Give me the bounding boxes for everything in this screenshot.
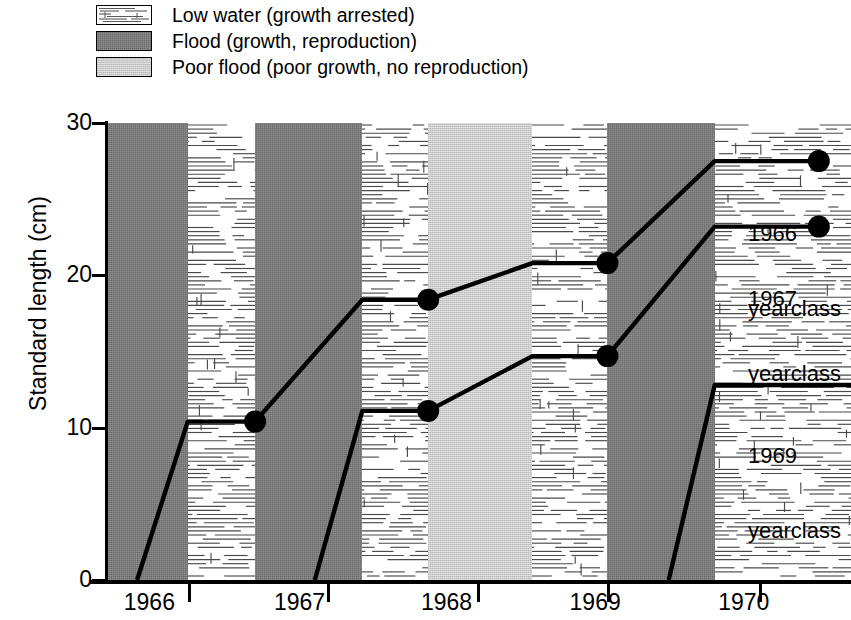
data-point-marker (417, 289, 439, 311)
annotation-1969-line1: 1969 (748, 443, 841, 468)
data-point-marker (596, 345, 618, 367)
series-line-1 (315, 227, 819, 580)
plot-area: 1966 yearclass 1967 yearclass 1969 yearc… (108, 123, 851, 580)
y-axis-line (105, 121, 108, 582)
data-point-marker (808, 150, 830, 172)
x-tick-label-1970: 1970 (684, 589, 804, 615)
y-tick-mark (92, 427, 106, 430)
legend-item-poor-flood: Poor flood (poor growth, no reproduction… (96, 54, 716, 80)
y-axis-label: Standard length (cm) (25, 114, 52, 494)
y-tick-mark (92, 274, 106, 277)
x-tick-label-1968: 1968 (387, 589, 507, 615)
series-layer (108, 123, 851, 580)
low-water-texture-icon (97, 6, 151, 24)
x-axis-line (90, 580, 851, 584)
legend-label-flood: Flood (growth, reproduction) (172, 31, 417, 51)
figure-root: Low water (growth arrested) Flood (growt… (0, 0, 851, 620)
series-line-0 (137, 161, 819, 580)
y-tick-mark (92, 579, 106, 582)
y-tick-mark (92, 122, 106, 125)
x-tick-label-1969: 1969 (535, 589, 655, 615)
data-point-marker (596, 252, 618, 274)
legend: Low water (growth arrested) Flood (growt… (96, 2, 716, 80)
data-point-marker (244, 411, 266, 433)
annotation-1969-yearclass: 1969 yearclass (748, 393, 841, 580)
x-tick-label-1966: 1966 (89, 589, 209, 615)
flood-swatch (96, 31, 152, 51)
legend-item-low-water: Low water (growth arrested) (96, 2, 716, 28)
poor-flood-swatch (96, 57, 152, 77)
annotation-1967-line2: yearclass (748, 361, 841, 386)
legend-label-low-water: Low water (growth arrested) (172, 5, 415, 25)
legend-label-poor-flood: Poor flood (poor growth, no reproduction… (172, 57, 529, 77)
data-point-marker (417, 400, 439, 422)
annotation-1967-line1: 1967 (748, 286, 841, 311)
annotation-1969-line2: yearclass (748, 518, 841, 543)
x-tick-label-1967: 1967 (239, 589, 359, 615)
y-tick-label-0: 0 (38, 568, 92, 591)
low-water-swatch (96, 5, 152, 25)
legend-item-flood: Flood (growth, reproduction) (96, 28, 716, 54)
